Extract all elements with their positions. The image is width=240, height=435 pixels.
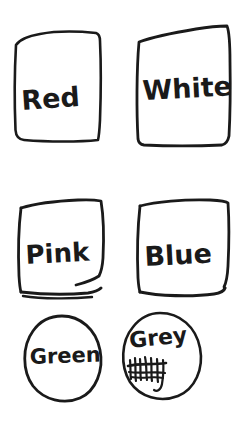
blue-box-bottom	[140, 288, 225, 296]
swatch-blue[interactable]: Blue	[138, 200, 229, 296]
swatch-green[interactable]: Green	[25, 316, 101, 401]
scribble-cross-line-3	[131, 377, 163, 378]
pink-box-bottom	[21, 288, 101, 294]
swatch-grey[interactable]: Grey	[123, 313, 201, 399]
swatch-white[interactable]: White	[137, 26, 233, 146]
grey-label: Grey	[128, 322, 188, 353]
scribble-vertical-strokes	[130, 357, 163, 391]
pink-box-left	[19, 208, 21, 292]
green-label: Green	[29, 343, 101, 369]
white-label: White	[142, 70, 233, 106]
swatch-pink[interactable]: Pink	[19, 200, 104, 299]
pink-label: Pink	[25, 237, 91, 270]
swatch-red[interactable]: Red	[15, 32, 101, 142]
red-label: Red	[20, 81, 80, 116]
blue-label: Blue	[144, 238, 213, 272]
blue-box-left	[138, 206, 140, 292]
pink-box-bottom-second-stroke	[23, 296, 92, 298]
sketch-drawing: Red White Pink Blue Green	[0, 0, 240, 435]
sketch-canvas: Red White Pink Blue Green	[0, 0, 240, 435]
scribble-cross-line-2	[129, 372, 165, 373]
